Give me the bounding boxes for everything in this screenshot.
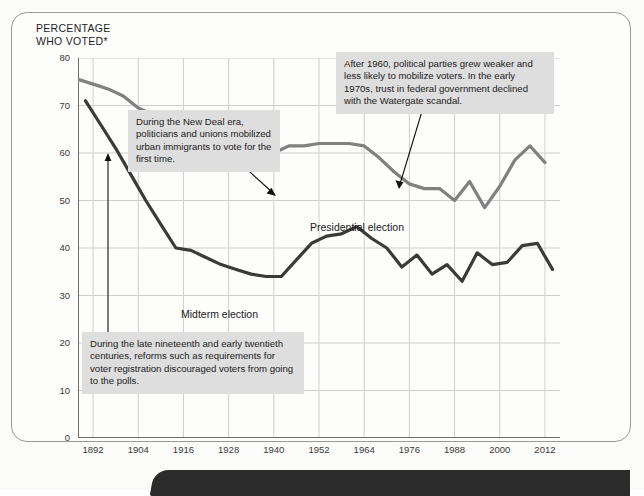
x-tick-label: 2012: [523, 444, 567, 455]
y-tick-label: 30: [44, 290, 70, 301]
y-axis-title: PERCENTAGE WHO VOTED*: [36, 22, 111, 48]
x-tick-label: 2000: [478, 444, 522, 455]
series-label-midterm: Midterm election: [181, 308, 258, 320]
x-tick-label: 1940: [252, 444, 296, 455]
y-tick-label: 50: [44, 195, 70, 206]
annotation-after-1960: After 1960, political parties grew weake…: [336, 52, 554, 114]
series-label-presidential: Presidential election: [310, 221, 404, 233]
annotation-late-nineteenth-century: During the late nineteenth and early twe…: [82, 332, 304, 394]
x-tick-label: 1976: [387, 444, 431, 455]
x-tick-label: 1904: [116, 444, 160, 455]
y-tick-label: 60: [44, 147, 70, 158]
annotation-new-deal: During the New Deal era, politicians and…: [128, 110, 280, 172]
y-tick-label: 10: [44, 385, 70, 396]
y-tick-label: 70: [44, 100, 70, 111]
x-tick-label: 1916: [161, 444, 205, 455]
x-tick-label: 1892: [71, 444, 115, 455]
x-tick-label: 1964: [342, 444, 386, 455]
x-tick-label: 1952: [297, 444, 341, 455]
y-tick-label: 80: [44, 52, 70, 63]
page-edge-bar-skewed: [150, 470, 625, 496]
y-tick-label: 40: [44, 242, 70, 253]
x-tick-label: 1928: [207, 444, 251, 455]
x-tick-label: 1988: [433, 444, 477, 455]
y-tick-label: 20: [44, 337, 70, 348]
y-tick-label: 0: [44, 432, 70, 443]
